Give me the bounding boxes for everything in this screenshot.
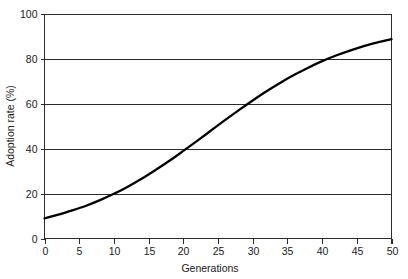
y-tick-label: 100 bbox=[20, 8, 38, 20]
x-tick-label: 15 bbox=[144, 245, 156, 257]
y-tick-label: 40 bbox=[26, 143, 38, 155]
y-tick-label: 60 bbox=[26, 98, 38, 110]
x-tick-label: 30 bbox=[248, 245, 260, 257]
x-tick-label: 25 bbox=[213, 245, 225, 257]
x-tick-label: 50 bbox=[387, 245, 399, 257]
x-tick-label: 45 bbox=[352, 245, 364, 257]
y-tick-label: 80 bbox=[26, 53, 38, 65]
chart-background bbox=[0, 0, 408, 279]
x-axis-title: Generations bbox=[181, 262, 238, 274]
y-tick-label: 0 bbox=[32, 233, 38, 245]
adoption-rate-chart: 020406080100 05101520253035404550 Genera… bbox=[0, 0, 408, 279]
x-tick-label: 5 bbox=[77, 245, 83, 257]
x-tick-label: 0 bbox=[43, 245, 49, 257]
y-tick-label: 20 bbox=[26, 188, 38, 200]
x-tick-label: 10 bbox=[109, 245, 121, 257]
chart-canvas: 020406080100 05101520253035404550 Genera… bbox=[0, 0, 408, 279]
x-tick-label: 35 bbox=[282, 245, 294, 257]
x-tick-label: 20 bbox=[178, 245, 190, 257]
y-axis-title: Adoption rate (%) bbox=[4, 85, 16, 167]
x-tick-label: 40 bbox=[317, 245, 329, 257]
